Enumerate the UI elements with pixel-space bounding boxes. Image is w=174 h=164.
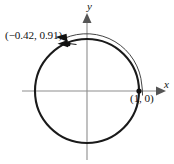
y-axis-label: y [87,1,92,12]
y-axis-arrowhead [83,13,92,23]
terminal-point-dot [66,42,71,47]
start-point-label: (1, 0) [130,93,154,104]
unit-circle-figure: (−0.42, 0.91) (1, 0) x y [0,0,174,164]
figure-canvas [0,0,174,164]
terminal-point-label: (−0.42, 0.91) [5,30,62,41]
x-axis-label: x [164,79,169,90]
